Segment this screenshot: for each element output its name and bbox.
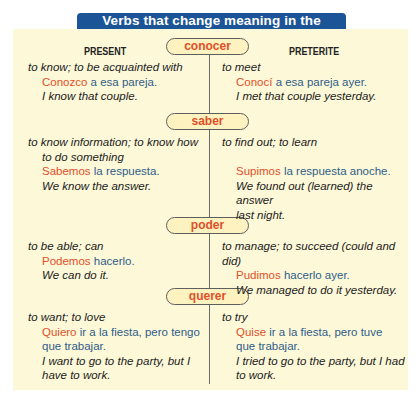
spanish-example-continued: que trabajar. bbox=[42, 339, 208, 354]
conocer-present: to know; to be acquainted with Conozco a… bbox=[28, 60, 206, 104]
meaning: to know; to be acquainted with bbox=[28, 60, 206, 75]
querer-preterite: to try Quise ir a la fiesta, pero tuve q… bbox=[222, 310, 412, 383]
meaning: to find out; to learn bbox=[222, 135, 407, 150]
english-translation: I tried to go to the party, but I had bbox=[236, 354, 412, 369]
chart-title: Verbs that change meaning in the preteri… bbox=[77, 13, 346, 29]
meaning: to meet bbox=[222, 60, 407, 75]
spanish-example: Conozco a esa pareja. bbox=[42, 75, 206, 90]
english-translation-continued: to work. bbox=[236, 368, 412, 383]
english-translation: We found out (learned) the answer bbox=[236, 179, 407, 208]
spanish-example: Supimos la respuesta anoche. bbox=[236, 164, 407, 179]
meaning: to know information; to know how bbox=[28, 135, 206, 150]
column-divider bbox=[209, 130, 210, 217]
meaning: to be able; can bbox=[28, 239, 206, 254]
spanish-example: Sabemos la respuesta. bbox=[42, 164, 206, 179]
present-column-header: PRESENT bbox=[84, 45, 126, 57]
english-translation-continued: last night. bbox=[236, 208, 407, 223]
english-translation: We can do it. bbox=[42, 268, 206, 283]
spanish-example: Quise ir a la fiesta, pero tuve bbox=[236, 325, 412, 340]
spanish-example-continued: que trabajar. bbox=[236, 339, 412, 354]
english-translation: We managed to do it yesterday. bbox=[236, 283, 412, 298]
spanish-example: Quiero ir a la fiesta, pero tengo bbox=[42, 325, 208, 340]
verb-label-conocer: conocer bbox=[166, 38, 249, 55]
meaning: to manage; to succeed (could and did) bbox=[222, 239, 412, 268]
english-translation: I want to go to the party, but I bbox=[42, 354, 208, 369]
spanish-example: Conocí a esa pareja ayer. bbox=[236, 75, 407, 90]
querer-present: to want; to love Quiero ir a la fiesta, … bbox=[28, 310, 208, 383]
conocer-preterite: to meet Conocí a esa pareja ayer. I met … bbox=[222, 60, 407, 104]
poder-present: to be able; can Podemos hacerlo. We can … bbox=[28, 239, 206, 283]
meaning: to want; to love bbox=[28, 310, 208, 325]
english-translation: I met that couple yesterday. bbox=[236, 89, 407, 104]
saber-present: to know information; to know how to do s… bbox=[28, 135, 206, 193]
english-translation: We know the answer. bbox=[42, 179, 206, 194]
verb-label-saber: saber bbox=[166, 113, 249, 130]
saber-preterite: to find out; to learn Supimos la respues… bbox=[222, 135, 407, 223]
spanish-example: Podemos hacerlo. bbox=[42, 254, 206, 269]
meaning-continued: to do something bbox=[42, 150, 206, 165]
column-divider bbox=[209, 234, 210, 288]
english-translation: I know that couple. bbox=[42, 89, 206, 104]
column-divider bbox=[209, 305, 210, 384]
meaning: to try bbox=[222, 310, 412, 325]
column-divider bbox=[209, 55, 210, 113]
spanish-example: Pudimos hacerlo ayer. bbox=[236, 268, 412, 283]
poder-preterite: to manage; to succeed (could and did) Pu… bbox=[222, 239, 412, 297]
preterite-column-header: PRETERITE bbox=[289, 45, 339, 57]
english-translation-continued: have to work. bbox=[42, 368, 208, 383]
